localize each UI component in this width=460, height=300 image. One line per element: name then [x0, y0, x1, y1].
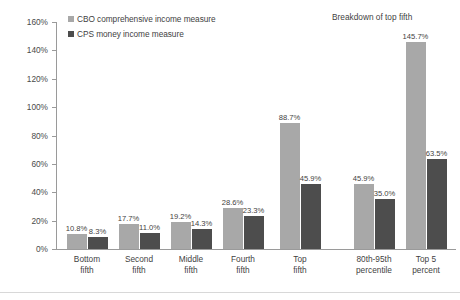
bar-value-label: 45.9% [300, 174, 322, 183]
bar [140, 233, 160, 249]
x-axis-category-label: 80th-95thpercentile [356, 254, 392, 275]
bar [354, 184, 374, 249]
bar [192, 229, 212, 249]
bar-value-label: 8.3% [89, 227, 106, 236]
x-axis-category-label-line: percentile [356, 265, 392, 276]
bar [171, 222, 191, 249]
bar [67, 234, 87, 249]
y-axis-tick-label: 0% [36, 244, 48, 254]
x-axis-category-label-line: fifth [125, 265, 153, 276]
bar [119, 224, 139, 249]
x-axis-category-label-line: fifth [293, 265, 306, 276]
x-axis-category-label: Fourthfifth [231, 254, 255, 275]
bar [280, 123, 300, 249]
y-axis-tick-label: 40% [31, 187, 48, 197]
x-axis-category-label-line: Top [293, 254, 306, 265]
x-axis-category-label-line: Bottom [74, 254, 100, 265]
x-axis-line [56, 249, 456, 250]
x-axis-category-label-line: Fourth [231, 254, 255, 265]
x-axis-category-label-line: fifth [74, 265, 100, 276]
bar-value-label: 28.6% [222, 198, 244, 207]
x-axis-category-label: Middlefifth [179, 254, 203, 275]
bar-value-label: 45.9% [353, 174, 375, 183]
bar-value-label: 10.8% [66, 224, 88, 233]
x-axis-category-label: Top 5percent [412, 254, 440, 275]
y-axis-tick [52, 249, 57, 250]
bar-value-label: 35.0% [374, 189, 396, 198]
bar-value-label: 145.7% [403, 32, 429, 41]
bar [406, 42, 426, 249]
x-axis-category-label: Topfifth [293, 254, 306, 275]
bar-value-label: 19.2% [170, 212, 192, 221]
x-axis-category-label-line: Middle [179, 254, 203, 265]
x-axis-category-label-line: Top 5 [412, 254, 440, 265]
bar-value-label: 88.7% [279, 113, 301, 122]
y-axis-tick-label: 140% [27, 45, 48, 55]
bar-chart: CBO comprehensive income measure CPS mon… [0, 0, 460, 300]
bar-value-label: 63.5% [426, 149, 448, 158]
bar [88, 237, 108, 249]
x-axis-category-label: Secondfifth [125, 254, 153, 275]
bar-value-label: 11.0% [139, 223, 160, 232]
x-axis-category-label-line: Second [125, 254, 153, 265]
plot-area: 10.8%8.3%17.7%11.0%19.2%14.3%28.6%23.3%8… [57, 22, 456, 249]
x-axis-category-label-line: fifth [179, 265, 203, 276]
y-axis-tick-label: 160% [27, 17, 48, 27]
bar-value-label: 14.3% [191, 219, 213, 228]
y-axis-tick-label: 120% [27, 74, 48, 84]
bar [427, 159, 447, 249]
bottom-divider [0, 292, 460, 293]
x-axis-category-label-line: percent [412, 265, 440, 276]
bar [244, 216, 264, 249]
bar [301, 184, 321, 249]
bar [375, 199, 395, 249]
y-axis-tick-label: 100% [27, 102, 48, 112]
x-axis-category-label-line: 80th-95th [356, 254, 392, 265]
bar-value-label: 23.3% [243, 206, 265, 215]
bar [223, 208, 243, 249]
y-axis-tick-label: 80% [31, 131, 48, 141]
section-title-breakdown: Breakdown of top fifth [332, 12, 412, 22]
bar-value-label: 17.7% [118, 214, 140, 223]
y-axis-tick-label: 20% [31, 216, 48, 226]
y-axis-tick-label: 60% [31, 159, 48, 169]
x-axis-category-label-line: fifth [231, 265, 255, 276]
x-axis-category-label: Bottomfifth [74, 254, 100, 275]
